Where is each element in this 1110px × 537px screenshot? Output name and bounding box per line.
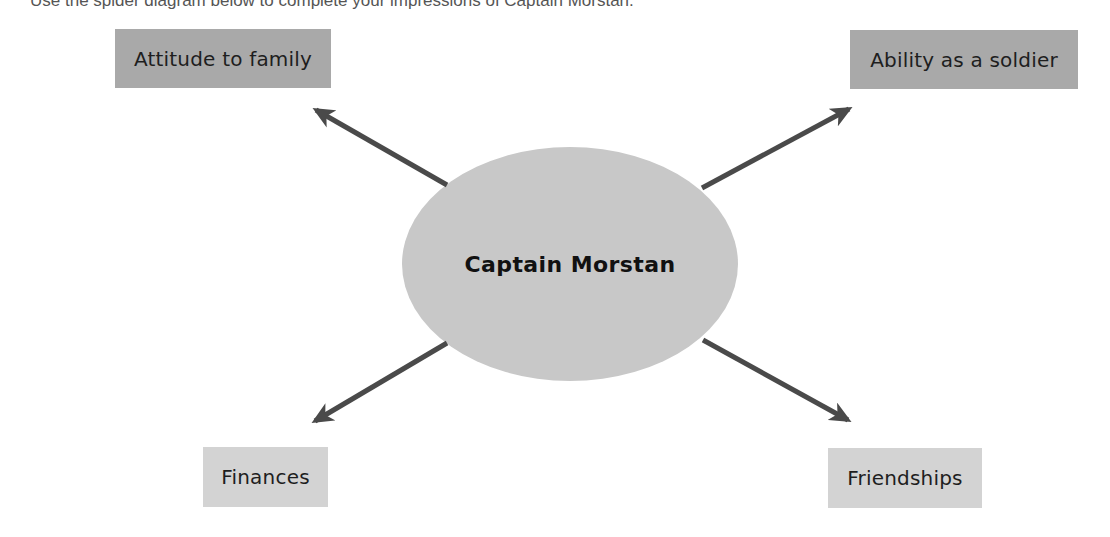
node-friendships: Friendships <box>828 448 982 508</box>
center-node-label: Captain Morstan <box>402 147 738 381</box>
node-attitude-to-family: Attitude to family <box>115 29 331 88</box>
node-finances: Finances <box>203 447 328 507</box>
node-ability-as-a-soldier: Ability as a soldier <box>850 30 1078 89</box>
